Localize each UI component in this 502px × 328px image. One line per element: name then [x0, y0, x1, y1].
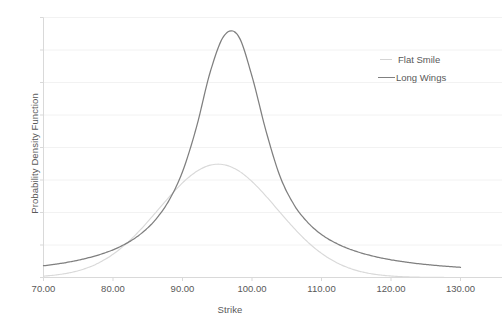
legend-label-long-wings: Long Wings	[396, 72, 446, 83]
chart-container: Probability Density Function Strike 70.0…	[0, 0, 502, 328]
legend-label-flat-smile: Flat Smile	[398, 54, 440, 65]
x-tick-label: 70.00	[14, 283, 74, 294]
chart-legend: Flat Smile Long Wings	[378, 50, 502, 86]
x-tick-label: 110.00	[292, 283, 352, 294]
y-tick-marks-group	[40, 18, 44, 278]
legend-line-swatch-long-wings	[378, 77, 395, 78]
x-tick-label: 80.00	[83, 283, 143, 294]
x-tick-label: 130.00	[431, 283, 491, 294]
x-tick-label: 100.00	[222, 283, 282, 294]
y-axis-title: Probability Density Function	[29, 54, 40, 254]
x-tick-label: 90.00	[153, 283, 213, 294]
legend-item-long-wings[interactable]: Long Wings	[378, 68, 502, 86]
legend-item-flat-smile[interactable]: Flat Smile	[378, 50, 502, 68]
legend-line-swatch-flat-smile	[380, 59, 392, 60]
x-axis-title: Strike	[0, 304, 460, 315]
x-tick-label: 120.00	[361, 283, 421, 294]
x-tick-marks-group	[44, 278, 461, 282]
